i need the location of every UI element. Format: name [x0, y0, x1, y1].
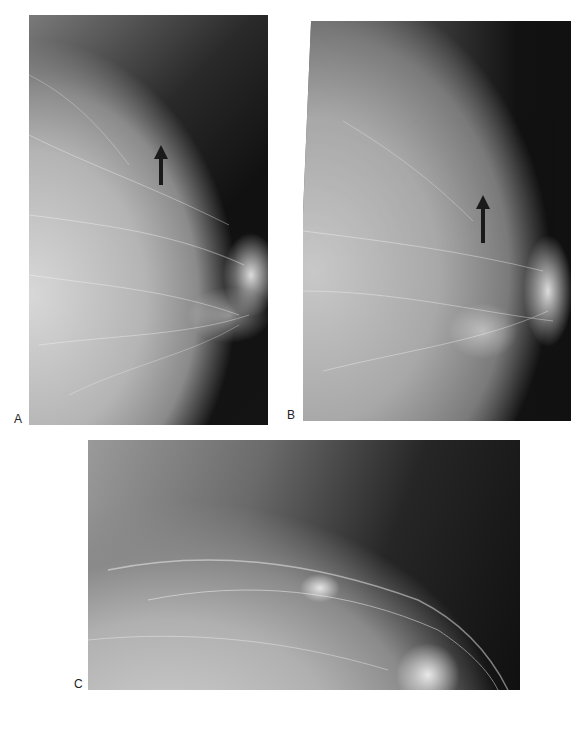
- figure-caption-fragment: [300, 718, 584, 729]
- mammogram-panel-a: [29, 15, 268, 425]
- mammogram-panel-c: [88, 440, 520, 690]
- panel-label-a: A: [14, 412, 22, 426]
- arrow-indicator-b: [479, 195, 487, 243]
- tissue-texture: [88, 440, 520, 690]
- tissue-texture: [303, 21, 571, 421]
- mammogram-panel-b: [303, 21, 571, 421]
- panel-label-b: B: [287, 408, 295, 422]
- arrow-indicator-a: [157, 145, 165, 185]
- tissue-texture: [29, 15, 268, 425]
- panel-label-c: C: [74, 677, 83, 691]
